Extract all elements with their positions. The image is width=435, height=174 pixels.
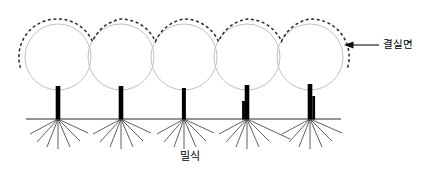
- root-line: [247, 119, 269, 141]
- tree-2: [93, 86, 151, 149]
- root-line: [299, 119, 310, 147]
- root-line: [110, 119, 121, 147]
- root-line: [236, 119, 247, 147]
- root-line: [121, 119, 143, 141]
- root-line: [58, 119, 80, 141]
- arrow-left-icon: [344, 42, 354, 49]
- root-line: [121, 119, 133, 147]
- tree-5-trunk: [308, 84, 313, 120]
- dense-planting-diagram: 결실면 밀식: [0, 0, 435, 174]
- dense-planting-label: 밀식: [0, 150, 380, 163]
- root-line: [157, 119, 184, 134]
- fruiting-surface-outline: [19, 19, 349, 68]
- root-line: [30, 119, 58, 134]
- tree-4-roots: [219, 119, 290, 149]
- tree-2-trunk: [119, 86, 124, 120]
- tree-1-roots: [30, 119, 88, 149]
- tree-2-roots: [93, 119, 151, 149]
- root-line: [289, 119, 310, 142]
- root-line: [219, 119, 247, 134]
- root-line: [58, 119, 88, 133]
- root-line: [310, 119, 332, 141]
- tree-5-roots: [282, 119, 342, 149]
- tree-4-trunk: [245, 85, 250, 120]
- tree-1: [30, 86, 88, 149]
- root-line: [184, 119, 196, 147]
- root-line: [164, 119, 184, 142]
- tree-4-branch-stub: [242, 101, 245, 120]
- fruiting-surface-leader: [344, 42, 379, 49]
- root-line: [277, 133, 290, 139]
- root-line: [121, 119, 151, 133]
- canopy-circle-1: [25, 24, 91, 90]
- fruiting-surface-label: 결실면: [383, 38, 414, 50]
- canopy-circle-group: [25, 24, 343, 90]
- canopy-circle-3: [151, 24, 217, 90]
- fruiting-surface-outline-group: [19, 19, 349, 68]
- root-line: [174, 119, 184, 147]
- diagram-canvas: [0, 0, 435, 174]
- tree-3-roots: [157, 119, 214, 149]
- tree-3-trunk: [182, 88, 186, 120]
- canopy-circle-5: [277, 24, 343, 90]
- root-line: [247, 119, 259, 147]
- root-line: [100, 119, 121, 142]
- root-line: [184, 119, 206, 141]
- root-line: [93, 119, 121, 134]
- root-line: [226, 119, 247, 142]
- tree-4: [219, 85, 290, 149]
- tree-5: [282, 84, 342, 149]
- tree-5-branch-stub: [312, 96, 315, 120]
- canopy-circle-2: [88, 24, 154, 90]
- root-line: [37, 119, 58, 142]
- root-line: [47, 119, 58, 147]
- root-line: [282, 119, 310, 134]
- tree-1-trunk: [56, 86, 61, 120]
- root-line: [184, 119, 214, 133]
- root-line: [58, 119, 70, 147]
- canopy-circle-4: [214, 24, 280, 90]
- root-line: [247, 119, 277, 133]
